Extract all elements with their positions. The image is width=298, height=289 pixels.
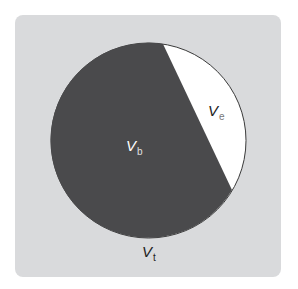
label-vt: Vt <box>142 244 156 259</box>
label-vb: Vb <box>126 138 143 153</box>
label-ve: Ve <box>208 103 225 118</box>
